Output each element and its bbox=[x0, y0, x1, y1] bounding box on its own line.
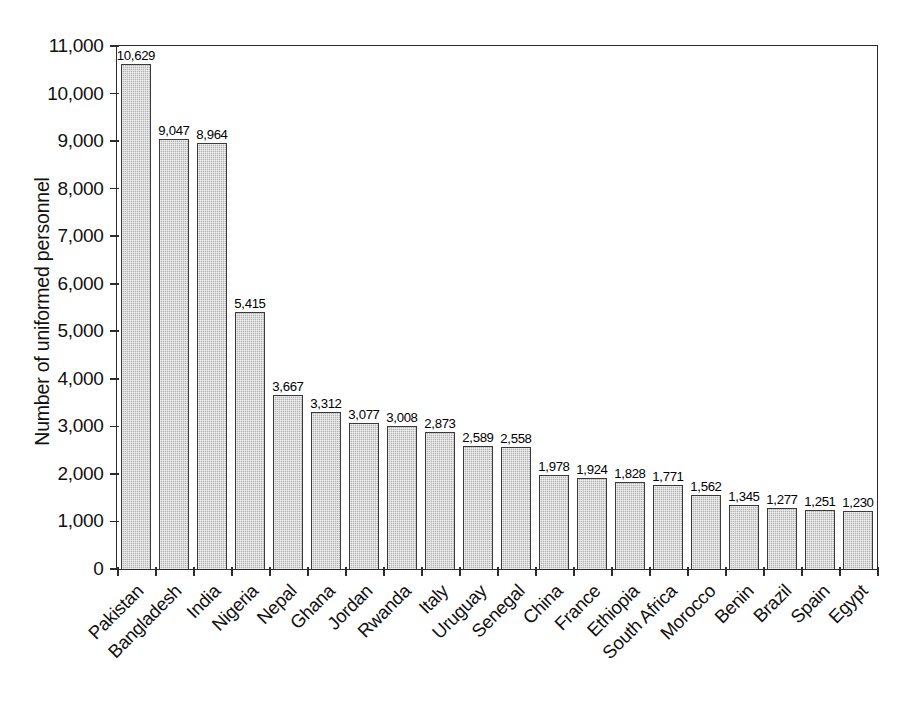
bar-value-label: 3,312 bbox=[310, 396, 341, 411]
bar[interactable]: 3,077 bbox=[349, 423, 379, 569]
bar-slot: 1,771 bbox=[649, 46, 687, 569]
bar-slot: 1,345 bbox=[725, 46, 763, 569]
bar-slot: 10,629 bbox=[117, 46, 155, 569]
bar-slot: 8,964 bbox=[193, 46, 231, 569]
bar-slot: 1,562 bbox=[687, 46, 725, 569]
bar[interactable]: 2,558 bbox=[501, 447, 531, 569]
bar-value-label: 3,008 bbox=[386, 410, 417, 425]
x-axis-tick-mark bbox=[877, 567, 879, 576]
y-axis-tick-label: 8,000 bbox=[58, 178, 110, 200]
x-axis-category-label: Spain bbox=[786, 578, 836, 628]
bar[interactable]: 1,230 bbox=[843, 511, 873, 569]
bar-slot: 3,077 bbox=[345, 46, 383, 569]
bar-slot: 2,873 bbox=[421, 46, 459, 569]
bar-slot: 2,558 bbox=[497, 46, 535, 569]
bar-slot: 3,667 bbox=[269, 46, 307, 569]
y-axis-tick-label: 9,000 bbox=[58, 130, 110, 152]
y-axis-tick-label: 4,000 bbox=[58, 368, 110, 390]
bar-value-label: 1,978 bbox=[538, 459, 569, 474]
y-axis-tick-label: 11,000 bbox=[49, 35, 110, 57]
y-axis-tick-label: 0 bbox=[93, 558, 109, 580]
bar-value-label: 3,667 bbox=[272, 379, 303, 394]
bar-slot: 5,415 bbox=[231, 46, 269, 569]
bar-value-label: 2,589 bbox=[462, 430, 493, 445]
bar-value-label: 2,873 bbox=[424, 416, 455, 431]
bar[interactable]: 1,345 bbox=[729, 505, 759, 569]
plot-area: 01,0002,0003,0004,0005,0006,0007,0008,00… bbox=[116, 45, 878, 570]
bar-value-label: 1,230 bbox=[842, 495, 873, 510]
bar-slot: 1,924 bbox=[573, 46, 611, 569]
bar-value-label: 1,277 bbox=[766, 492, 797, 507]
bar-value-label: 9,047 bbox=[158, 123, 189, 138]
bar-value-label: 1,562 bbox=[690, 479, 721, 494]
bar[interactable]: 1,978 bbox=[539, 475, 569, 569]
y-axis-tick-label: 3,000 bbox=[58, 415, 110, 437]
bar-slot: 1,277 bbox=[763, 46, 801, 569]
y-axis-tick-label: 6,000 bbox=[58, 273, 110, 295]
bar[interactable]: 5,415 bbox=[235, 312, 265, 569]
bar-slot: 1,978 bbox=[535, 46, 573, 569]
bar[interactable]: 3,667 bbox=[273, 395, 303, 569]
bar-slot: 3,008 bbox=[383, 46, 421, 569]
x-axis-category-labels: PakistanBangladeshIndiaNigeriaNepalGhana… bbox=[116, 578, 878, 698]
bar-slot: 9,047 bbox=[155, 46, 193, 569]
x-axis-category-label: Brazil bbox=[749, 578, 798, 627]
bar-value-label: 8,964 bbox=[196, 127, 227, 142]
bar-slot: 2,589 bbox=[459, 46, 497, 569]
bar[interactable]: 8,964 bbox=[197, 143, 227, 569]
y-axis-tick-label: 10,000 bbox=[47, 83, 109, 105]
bar[interactable]: 1,251 bbox=[805, 510, 835, 569]
bar-value-label: 1,828 bbox=[614, 466, 645, 481]
bar[interactable]: 1,924 bbox=[577, 478, 607, 569]
y-axis-tick-label: 2,000 bbox=[58, 463, 110, 485]
bar-slot: 3,312 bbox=[307, 46, 345, 569]
bar[interactable]: 2,873 bbox=[425, 432, 455, 569]
bar[interactable]: 10,629 bbox=[121, 64, 151, 569]
y-axis-tick-label: 5,000 bbox=[58, 320, 110, 342]
bar[interactable]: 9,047 bbox=[159, 139, 189, 569]
bar-slot: 1,251 bbox=[801, 46, 839, 569]
bar-slot: 1,828 bbox=[611, 46, 649, 569]
bar[interactable]: 1,771 bbox=[653, 485, 683, 569]
y-axis-tick-label: 7,000 bbox=[58, 225, 110, 247]
bar-series: 10,6299,0478,9645,4153,6673,3123,0773,00… bbox=[117, 46, 877, 569]
bar-slot: 1,230 bbox=[839, 46, 877, 569]
bar-value-label: 1,924 bbox=[576, 462, 607, 477]
bar-value-label: 1,345 bbox=[728, 489, 759, 504]
bar-value-label: 3,077 bbox=[348, 407, 379, 422]
bar[interactable]: 1,562 bbox=[691, 495, 721, 569]
bar-value-label: 1,771 bbox=[652, 469, 683, 484]
bar[interactable]: 1,828 bbox=[615, 482, 645, 569]
y-axis-title: Number of uniformed personnel bbox=[31, 152, 54, 472]
bar-value-label: 1,251 bbox=[804, 494, 835, 509]
bar-value-label: 5,415 bbox=[234, 296, 265, 311]
bar[interactable]: 3,312 bbox=[311, 412, 341, 569]
bar-chart-figure: Number of uniformed personnel 01,0002,00… bbox=[0, 0, 916, 704]
bar-value-label: 10,629 bbox=[117, 48, 155, 63]
y-axis-tick-label: 1,000 bbox=[58, 510, 110, 532]
x-axis-category-label: Egypt bbox=[824, 578, 874, 628]
bar[interactable]: 1,277 bbox=[767, 508, 797, 569]
x-axis-category-label: Benin bbox=[710, 578, 760, 628]
bar[interactable]: 2,589 bbox=[463, 446, 493, 569]
bar[interactable]: 3,008 bbox=[387, 426, 417, 569]
bar-value-label: 2,558 bbox=[500, 431, 531, 446]
